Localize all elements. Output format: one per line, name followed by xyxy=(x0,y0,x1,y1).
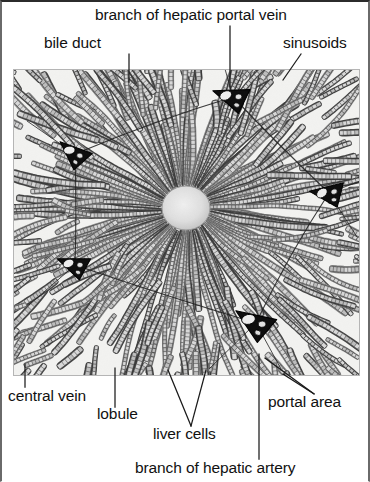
liver-lobule-micrograph xyxy=(13,69,360,376)
label-sinusoids: sinusoids xyxy=(283,35,347,51)
label-portal-area: portal area xyxy=(268,394,341,410)
label-bile-duct: bile duct xyxy=(44,35,101,51)
label-liver-cells: liver cells xyxy=(153,426,216,442)
label-branch-of-hepatic-portal-vein: branch of hepatic portal vein xyxy=(95,7,287,23)
leader-liver-cells-a xyxy=(168,370,191,426)
label-central-vein: central vein xyxy=(8,388,86,404)
leader-portal-area-b xyxy=(283,374,314,394)
label-branch-of-hepatic-artery: branch of hepatic artery xyxy=(135,460,295,476)
micrograph-canvas xyxy=(13,69,360,376)
figure-page: branch of hepatic portal vein bile duct … xyxy=(0,0,370,482)
label-lobule: lobule xyxy=(97,406,138,422)
leader-liver-cells-b xyxy=(191,370,206,426)
film-grain xyxy=(13,69,360,376)
